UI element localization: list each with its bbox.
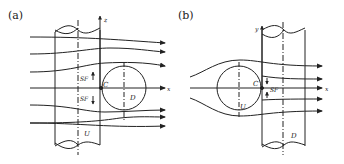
- sf-lower-label: SF: [80, 95, 89, 102]
- flow-diagram: (a) z x C SF SF D U: [0, 0, 344, 164]
- cylinder-d-label-b: D: [290, 132, 297, 140]
- panel-a-label: (a): [8, 9, 23, 22]
- cylinder-d-label-a: D: [129, 94, 136, 102]
- cylinder-u-label-a: U: [84, 130, 91, 138]
- panel-a: [30, 16, 165, 155]
- cylinder-u-label-b: U: [240, 103, 247, 111]
- point-c-b: C: [253, 80, 259, 88]
- sf-upper-label: SF: [80, 75, 89, 82]
- x-axis-label-b: x: [325, 85, 329, 92]
- panel-b-label: (b): [178, 9, 194, 22]
- panel-b: [190, 22, 322, 155]
- sf-label-b: SF: [270, 86, 279, 93]
- panel-b-labels: (b) y x C SF U D: [178, 9, 329, 140]
- x-axis-label-a: x: [167, 85, 171, 92]
- z-axis-label: z: [103, 16, 108, 23]
- point-c-a: C: [103, 81, 109, 89]
- panel-a-labels: (a) z x C SF SF D U: [8, 9, 171, 138]
- y-axis-label: y: [254, 25, 259, 33]
